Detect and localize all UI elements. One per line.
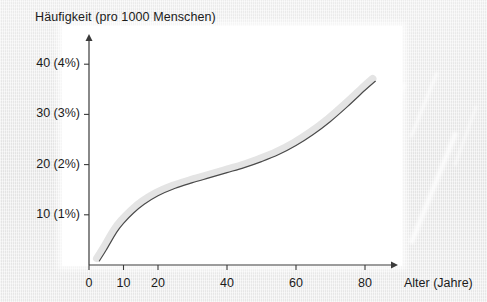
x-axis-tick-label: 60 <box>276 276 316 290</box>
y-axis-tick-label: 10 (1%) <box>36 207 80 221</box>
chart-figure: Häufigkeit (pro 1000 Menschen) 10 (1%)20… <box>0 0 487 302</box>
x-axis-tick-label: 80 <box>345 276 385 290</box>
curve-shadow-band <box>97 79 373 259</box>
curve-line <box>99 81 375 261</box>
y-axis-tick-label: 20 (2%) <box>36 157 80 171</box>
axes <box>89 40 392 265</box>
x-axis-tick-label: 40 <box>207 276 247 290</box>
y-axis-tick-label: 30 (3%) <box>36 106 80 120</box>
y-axis-tick-label: 40 (4%) <box>36 56 80 70</box>
x-axis-title: Alter (Jahre) <box>404 276 473 290</box>
chart-canvas <box>0 0 487 302</box>
x-axis-tick-label: 20 <box>138 276 178 290</box>
